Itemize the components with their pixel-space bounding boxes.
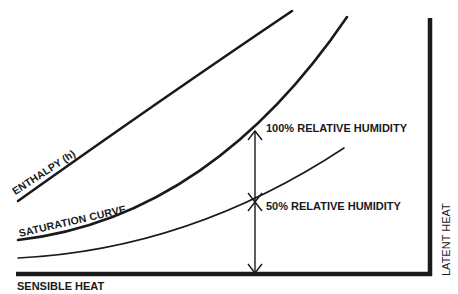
- rh-50-label: 50% RELATIVE HUMIDITY: [266, 201, 401, 212]
- sensible-heat-label: SENSIBLE HEAT: [17, 281, 104, 292]
- rh-100-label: 100% RELATIVE HUMIDITY: [266, 123, 407, 134]
- latent-heat-label: LATENT HEAT: [441, 203, 452, 276]
